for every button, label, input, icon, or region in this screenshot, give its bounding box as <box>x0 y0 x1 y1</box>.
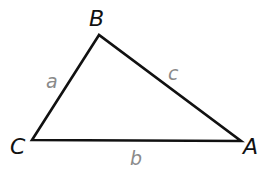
triangle-diagram: B C A a c b <box>0 0 277 182</box>
vertex-label-a: A <box>241 134 258 159</box>
vertex-label-c: C <box>10 134 26 159</box>
side-label-a: a <box>46 70 58 92</box>
side-label-c: c <box>168 62 179 84</box>
vertex-label-b: B <box>89 6 104 31</box>
triangle-outline <box>32 35 241 141</box>
triangle-figure: B C A a c b <box>0 0 277 182</box>
side-label-b: b <box>130 147 142 169</box>
